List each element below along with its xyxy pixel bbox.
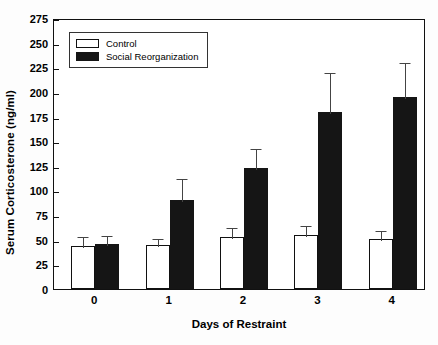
error-bar xyxy=(306,226,307,237)
legend-item-social-reorganization: Social Reorganization xyxy=(76,50,198,63)
y-axis-tick-label: 275 xyxy=(30,13,48,25)
filled-square-swatch-icon xyxy=(76,52,99,61)
y-axis-tick-label: 0 xyxy=(42,284,48,296)
error-bar xyxy=(405,63,406,98)
x-axis-tick-label: 3 xyxy=(314,294,320,306)
x-axis-tick-label: 0 xyxy=(91,294,97,306)
open-square-swatch-icon xyxy=(76,39,99,48)
x-axis-tick-labels: 01234 xyxy=(53,294,425,312)
y-axis-tick-mark xyxy=(54,217,59,218)
y-axis-tick-label: 100 xyxy=(30,185,48,197)
x-axis-tick-label: 1 xyxy=(165,294,171,306)
y-axis-tick-mark xyxy=(54,119,59,120)
bar-control-day-2 xyxy=(220,237,244,289)
y-axis-tick-label: 175 xyxy=(30,112,48,124)
error-bar xyxy=(232,228,233,239)
y-axis-tick-mark xyxy=(54,192,59,193)
bar-social-reorganization-day-0 xyxy=(95,244,119,289)
x-axis-tick-label: 4 xyxy=(389,294,395,306)
bar-social-reorganization-day-3 xyxy=(318,112,342,289)
error-bar-cap xyxy=(251,149,262,150)
bar-social-reorganization-day-4 xyxy=(393,97,417,289)
error-bar-cap xyxy=(176,179,187,180)
legend-label: Control xyxy=(106,38,137,49)
error-bar xyxy=(158,239,159,247)
y-axis-tick-label: 150 xyxy=(30,136,48,148)
y-axis-tick-label: 75 xyxy=(36,210,48,222)
bar-social-reorganization-day-1 xyxy=(170,200,194,289)
bar-control-day-4 xyxy=(369,239,393,289)
error-bar xyxy=(381,231,382,241)
x-axis-title: Days of Restraint xyxy=(53,318,425,330)
y-axis-tick-label: 225 xyxy=(30,62,48,74)
y-axis-tick-mark xyxy=(54,45,59,46)
error-bar xyxy=(330,73,331,113)
error-bar-cap xyxy=(152,239,163,240)
error-bar xyxy=(107,236,108,246)
chart-legend: Control Social Reorganization xyxy=(69,32,208,68)
y-axis-tick-mark xyxy=(54,94,59,95)
y-axis-tick-mark xyxy=(54,69,59,70)
bar-control-day-1 xyxy=(146,245,170,289)
y-axis-tick-label: 125 xyxy=(30,161,48,173)
chart-figure: Serum Corticosterone (ng/ml) 02550751001… xyxy=(0,0,438,345)
error-bar-cap xyxy=(102,236,113,237)
error-bar xyxy=(256,149,257,170)
y-axis-tick-labels: 0255075100125150175200225250275 xyxy=(18,12,48,297)
y-axis-tick-mark xyxy=(54,242,59,243)
error-bar xyxy=(83,237,84,248)
y-axis-tick-label: 250 xyxy=(30,38,48,50)
bar-control-day-0 xyxy=(71,246,95,289)
y-axis-tick-label: 25 xyxy=(36,259,48,271)
y-axis-tick-label: 200 xyxy=(30,87,48,99)
error-bar-cap xyxy=(399,63,410,64)
legend-item-control: Control xyxy=(76,37,198,50)
error-bar-cap xyxy=(325,73,336,74)
y-axis-tick-mark xyxy=(54,143,59,144)
error-bar-cap xyxy=(375,231,386,232)
error-bar-cap xyxy=(227,228,238,229)
bar-social-reorganization-day-2 xyxy=(244,168,268,289)
x-axis-tick-label: 2 xyxy=(240,294,246,306)
y-axis-tick-mark xyxy=(54,20,59,21)
error-bar-cap xyxy=(301,226,312,227)
error-bar-cap xyxy=(78,237,89,238)
bar-control-day-3 xyxy=(294,235,318,289)
y-axis-title: Serum Corticosterone (ng/ml) xyxy=(0,0,20,345)
y-axis-tick-label: 50 xyxy=(36,235,48,247)
legend-label: Social Reorganization xyxy=(106,51,198,62)
y-axis-tick-mark xyxy=(54,168,59,169)
y-axis-tick-mark xyxy=(54,266,59,267)
error-bar xyxy=(182,179,183,203)
